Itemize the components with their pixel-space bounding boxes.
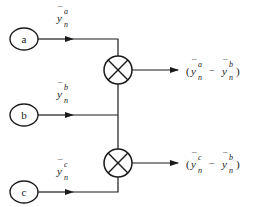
output-1-expression: ( ¯ y a n − ¯ y b n ) (186, 58, 240, 82)
output-2-t2-sup: b (229, 153, 233, 162)
signal-a-base: y (56, 12, 62, 24)
signal-b-sup: b (64, 83, 68, 92)
output-2-expression: ( ¯ y c n − ¯ y b n ) (186, 151, 240, 175)
output-1-close-paren: ) (236, 65, 240, 78)
output-1-open-paren: ( (186, 65, 190, 78)
signal-b-base: y (56, 88, 62, 100)
wire-a (66, 39, 118, 56)
output-2-minus: − (209, 158, 215, 169)
output-1-t2-base: y (221, 65, 227, 77)
signal-c-sub: n (64, 173, 68, 182)
signal-label-b: ¯ y b n (56, 81, 68, 105)
multiplier-1 (104, 56, 132, 84)
output-2-open-paren: ( (186, 158, 190, 171)
output-1-t1-sub: n (198, 73, 202, 82)
node-a-label: a (22, 33, 27, 45)
output-2-t1-sup: c (198, 153, 202, 162)
output-2-t1-base: y (190, 158, 196, 170)
signal-a-sup: a (64, 7, 68, 16)
signal-c-base: y (56, 165, 62, 177)
signal-b-sub: n (64, 96, 68, 105)
output-2-close-paren: ) (236, 158, 240, 171)
wire-c (66, 177, 118, 192)
signal-label-c: ¯ y c n (56, 158, 68, 182)
output-1-t2-sup: b (229, 60, 233, 69)
output-1-minus: − (209, 65, 215, 76)
node-b: b (10, 104, 38, 126)
output-2-t1-sub: n (198, 166, 202, 175)
output-2-t2-sub: n (229, 166, 233, 175)
signal-a-sub: n (64, 20, 68, 29)
signal-label-a: ¯ y a n (56, 5, 68, 29)
node-c: c (10, 181, 38, 203)
node-b-label: b (21, 109, 27, 121)
output-1-t1-base: y (190, 65, 196, 77)
node-a: a (10, 28, 38, 50)
node-c-label: c (22, 186, 27, 198)
output-1-t2-sub: n (229, 73, 233, 82)
signal-c-sup: c (64, 160, 68, 169)
signal-flow-diagram: a b c ¯ y a (0, 0, 264, 207)
multiplier-2 (104, 149, 132, 177)
output-1-t1-sup: a (198, 60, 202, 69)
output-2-t2-base: y (221, 158, 227, 170)
